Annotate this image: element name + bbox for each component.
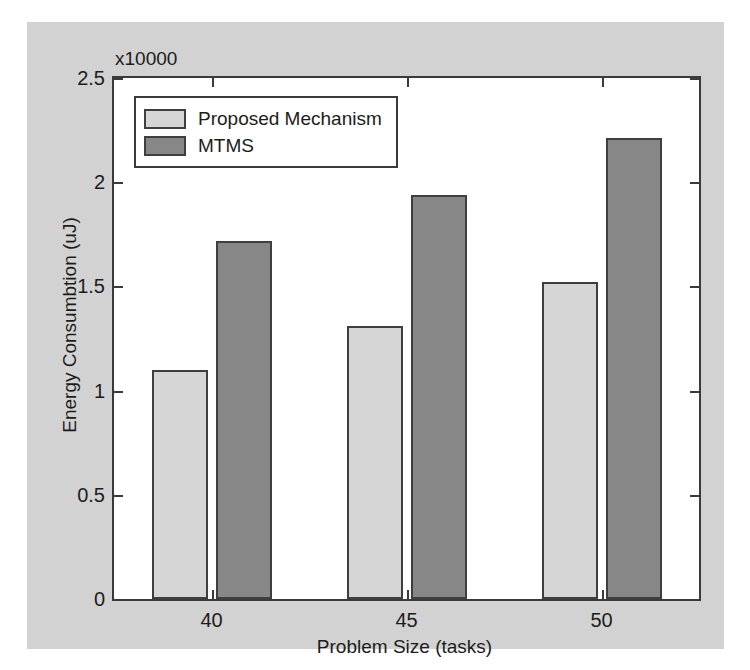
legend-swatch-icon <box>144 136 186 156</box>
y-tick-mark <box>114 391 123 393</box>
y-tick-label: 0.5 <box>77 483 105 506</box>
y-tick-mark <box>690 391 699 393</box>
bar-40-series-0 <box>152 370 208 599</box>
y-tick-label: 1 <box>94 379 105 402</box>
y-tick-mark <box>114 182 123 184</box>
y-tick-mark <box>114 78 123 80</box>
figure-canvas: x10000 00.511.522.5 404550 Proposed Mech… <box>27 22 724 649</box>
legend-label: Proposed Mechanism <box>198 108 382 130</box>
y-tick-mark <box>114 495 123 497</box>
x-tick-mark <box>602 590 604 599</box>
x-tick-mark <box>407 590 409 599</box>
legend-item: MTMS <box>144 132 382 159</box>
bar-45-series-0 <box>347 326 403 599</box>
plot-area: 00.511.522.5 404550 Proposed MechanismMT… <box>112 76 701 601</box>
bar-45-series-1 <box>411 195 467 599</box>
chart-legend: Proposed MechanismMTMS <box>134 96 398 168</box>
x-tick-label: 50 <box>590 609 612 632</box>
y-tick-mark <box>690 286 699 288</box>
y-tick-mark <box>690 495 699 497</box>
legend-swatch-icon <box>144 109 186 129</box>
y-axis-title: Energy Consumbtion (uJ) <box>59 115 81 535</box>
y-tick-label: 0 <box>94 588 105 611</box>
y-tick-label: 2 <box>94 171 105 194</box>
y-axis-exponent-label: x10000 <box>115 48 177 70</box>
x-tick-mark <box>407 78 409 87</box>
y-tick-label: 2.5 <box>77 67 105 90</box>
y-tick-label: 1.5 <box>77 275 105 298</box>
y-tick-mark <box>114 599 123 601</box>
y-tick-mark <box>690 599 699 601</box>
legend-label: MTMS <box>198 135 254 157</box>
x-tick-mark <box>212 590 214 599</box>
y-tick-mark <box>690 182 699 184</box>
legend-item: Proposed Mechanism <box>144 105 382 132</box>
bar-50-series-0 <box>542 282 598 599</box>
y-tick-mark <box>114 286 123 288</box>
y-tick-mark <box>690 78 699 80</box>
bar-40-series-1 <box>216 241 272 599</box>
x-tick-mark <box>212 78 214 87</box>
x-tick-mark <box>602 78 604 87</box>
x-tick-label: 40 <box>200 609 222 632</box>
x-axis-title: Problem Size (tasks) <box>112 636 697 658</box>
bar-50-series-1 <box>606 138 662 599</box>
x-tick-label: 45 <box>395 609 417 632</box>
